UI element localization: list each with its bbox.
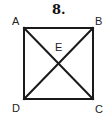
geometry-figure: 8. A B C D E — [0, 0, 108, 114]
intersection-label-e: E — [55, 41, 62, 53]
vertex-label-a: A — [12, 15, 19, 27]
vertex-label-d: D — [12, 102, 20, 114]
vertex-label-b: B — [95, 15, 102, 27]
vertex-label-c: C — [95, 103, 103, 114]
